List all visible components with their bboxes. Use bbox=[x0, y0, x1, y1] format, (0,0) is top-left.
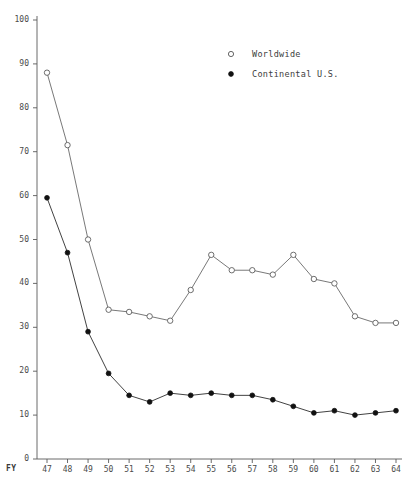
data-point bbox=[85, 237, 90, 242]
data-point bbox=[147, 314, 152, 319]
x-tick-label: 50 bbox=[99, 465, 119, 474]
x-tick-label: 53 bbox=[160, 465, 180, 474]
data-point bbox=[167, 318, 172, 323]
data-point bbox=[106, 307, 111, 312]
y-tick-label: 50 bbox=[3, 235, 29, 244]
y-tick-label: 100 bbox=[3, 15, 29, 24]
data-point bbox=[229, 268, 234, 273]
data-point bbox=[352, 314, 357, 319]
data-point bbox=[353, 413, 358, 418]
data-point bbox=[332, 408, 337, 413]
data-point bbox=[373, 320, 378, 325]
data-point bbox=[291, 252, 296, 257]
x-tick-label: 48 bbox=[58, 465, 78, 474]
data-point bbox=[188, 287, 193, 292]
chart-container: 0102030405060708090100 47484950515253545… bbox=[0, 0, 409, 481]
x-tick-label: 47 bbox=[37, 465, 57, 474]
x-axis-title: FY bbox=[6, 464, 17, 473]
data-point bbox=[168, 391, 173, 396]
data-point bbox=[270, 272, 275, 277]
y-tick-label: 60 bbox=[3, 191, 29, 200]
series-continental-u-s bbox=[45, 195, 399, 417]
data-point bbox=[229, 393, 234, 398]
y-tick-label: 20 bbox=[3, 366, 29, 375]
x-tick-label: 56 bbox=[222, 465, 242, 474]
y-tick-label: 40 bbox=[3, 278, 29, 287]
y-tick-label: 0 bbox=[3, 454, 29, 463]
y-tick-label: 10 bbox=[3, 410, 29, 419]
x-tick-label: 52 bbox=[140, 465, 160, 474]
x-tick-label: 57 bbox=[242, 465, 262, 474]
data-point bbox=[250, 268, 255, 273]
x-tick-label: 60 bbox=[304, 465, 324, 474]
data-point bbox=[393, 320, 398, 325]
data-point bbox=[126, 309, 131, 314]
legend-item-continental-us: Continental U.S. bbox=[224, 64, 339, 84]
data-point bbox=[332, 281, 337, 286]
x-tick-label: 62 bbox=[345, 465, 365, 474]
chart-legend: Worldwide Continental U.S. bbox=[224, 44, 339, 84]
data-point bbox=[45, 195, 50, 200]
data-point bbox=[250, 393, 255, 398]
data-point bbox=[209, 391, 214, 396]
data-point bbox=[127, 393, 132, 398]
x-tick-label: 51 bbox=[119, 465, 139, 474]
y-tick-label: 30 bbox=[3, 322, 29, 331]
data-point bbox=[86, 329, 91, 334]
data-point bbox=[188, 393, 193, 398]
series-worldwide bbox=[44, 70, 398, 326]
x-tick-label: 59 bbox=[283, 465, 303, 474]
x-tick-label: 64 bbox=[386, 465, 406, 474]
data-point bbox=[106, 371, 111, 376]
series-line bbox=[47, 198, 396, 415]
filled-circle-icon bbox=[224, 67, 238, 81]
data-point bbox=[373, 411, 378, 416]
x-tick-label: 63 bbox=[365, 465, 385, 474]
legend-label-worldwide: Worldwide bbox=[252, 49, 301, 59]
legend-item-worldwide: Worldwide bbox=[224, 44, 339, 64]
data-point bbox=[147, 400, 152, 405]
legend-label-continental-us: Continental U.S. bbox=[252, 69, 339, 79]
data-point bbox=[291, 404, 296, 409]
x-tick-label: 61 bbox=[324, 465, 344, 474]
data-point bbox=[270, 397, 275, 402]
data-point bbox=[209, 252, 214, 257]
data-point bbox=[311, 276, 316, 281]
plot-area bbox=[0, 0, 409, 481]
series-line bbox=[47, 73, 396, 323]
data-point bbox=[65, 142, 70, 147]
data-point bbox=[44, 70, 49, 75]
x-tick-label: 55 bbox=[201, 465, 221, 474]
x-tick-label: 58 bbox=[263, 465, 283, 474]
data-point bbox=[394, 408, 399, 413]
y-tick-label: 90 bbox=[3, 59, 29, 68]
x-tick-label: 54 bbox=[181, 465, 201, 474]
data-point bbox=[65, 250, 70, 255]
data-point bbox=[311, 411, 316, 416]
y-tick-label: 70 bbox=[3, 147, 29, 156]
open-circle-icon bbox=[224, 47, 238, 61]
y-tick-label: 80 bbox=[3, 103, 29, 112]
x-tick-label: 49 bbox=[78, 465, 98, 474]
